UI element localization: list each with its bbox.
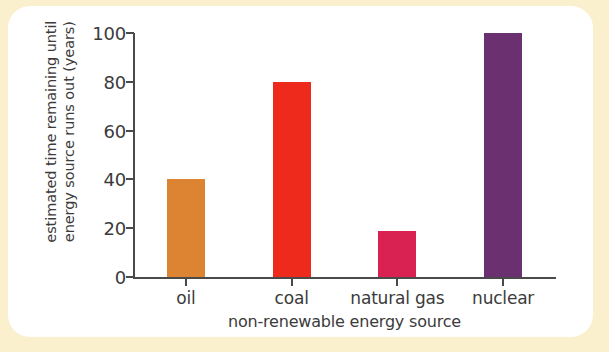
x-axis-tick-label: coal [275,288,309,308]
x-axis-tick-mark [185,279,187,286]
x-axis-tick-mark [396,279,398,286]
bar-oil [167,179,205,277]
bar-nuclear [484,33,522,277]
x-axis-tick-label: nuclear [472,288,534,308]
bars-layer [8,6,593,277]
figure-card: estimated time remaining until energy so… [8,6,593,337]
x-axis-tick-label: oil [176,288,195,308]
x-axis-tick-mark [502,279,504,286]
x-axis-line [133,277,556,279]
bar-coal [273,82,311,277]
bar-chart: estimated time remaining until energy so… [8,6,593,337]
bar-natural-gas [378,231,416,277]
x-axis-tick-mark [291,279,293,286]
figure-frame: estimated time remaining until energy so… [0,0,609,352]
x-axis-label: non-renewable energy source [133,312,556,331]
x-axis-tick-label: natural gas [350,288,444,308]
